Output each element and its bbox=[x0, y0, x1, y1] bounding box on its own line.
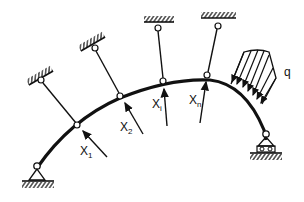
force-arrow-xi bbox=[164, 89, 167, 126]
roller-support-right bbox=[250, 131, 282, 160]
label-x2: X2 bbox=[120, 120, 133, 136]
arch-diagram: X1 X2 Xi Xn q bbox=[0, 0, 304, 202]
link-bar-n bbox=[201, 12, 236, 78]
label-xn: Xn bbox=[189, 93, 201, 109]
label-x1: X1 bbox=[80, 144, 93, 160]
distributed-load-q bbox=[231, 50, 276, 104]
pinned-support-left bbox=[22, 163, 54, 188]
label-q: q bbox=[284, 65, 291, 79]
link-bar-2 bbox=[78, 32, 123, 99]
arch-beam bbox=[37, 80, 266, 168]
link-bar-1 bbox=[26, 66, 80, 128]
label-xi: Xi bbox=[152, 97, 162, 113]
link-bar-i bbox=[144, 16, 174, 84]
